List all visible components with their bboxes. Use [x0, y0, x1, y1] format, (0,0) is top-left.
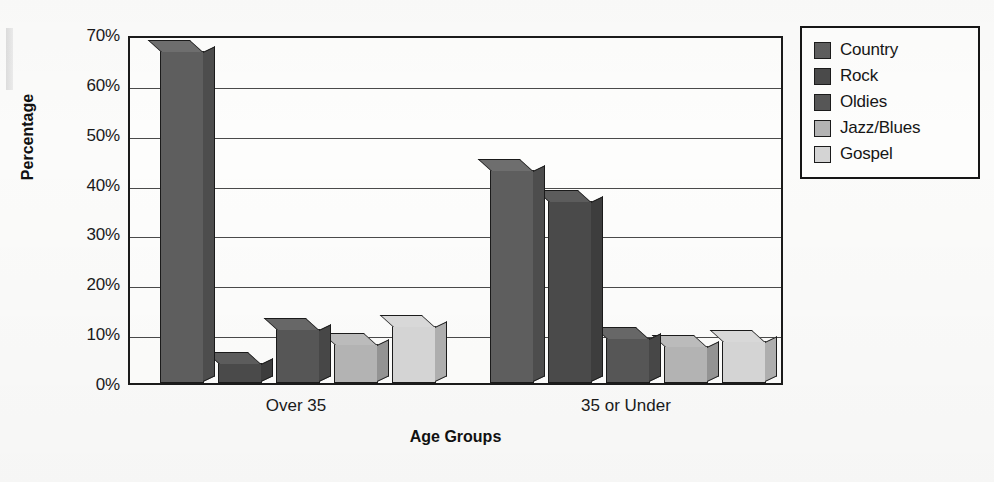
y-axis-tick-label: 70%	[62, 26, 120, 46]
legend-item-label: Oldies	[840, 92, 887, 112]
bar-side-face	[533, 165, 545, 382]
gridline	[130, 138, 781, 139]
bar	[160, 51, 204, 383]
legend-item[interactable]: Gospel	[814, 141, 968, 167]
x-axis-category-label: Over 35	[196, 396, 396, 416]
legend-item-label: Rock	[840, 66, 878, 86]
gridline	[130, 237, 781, 238]
bar-side-face	[591, 196, 603, 382]
legend-swatch	[814, 120, 831, 137]
y-axis-tick-label: 40%	[62, 176, 120, 196]
bar-side-face	[435, 321, 447, 382]
x-axis-title: Age Groups	[128, 428, 783, 446]
legend-swatch	[814, 94, 831, 111]
bar-side-face	[203, 47, 215, 382]
bar	[276, 329, 320, 383]
legend-item-label: Gospel	[840, 144, 893, 164]
y-axis-tick-label: 10%	[62, 325, 120, 345]
legend-item[interactable]: Oldies	[814, 89, 968, 115]
gridline	[130, 88, 781, 89]
bar-top-face	[148, 40, 203, 52]
legend-item[interactable]: Jazz/Blues	[814, 115, 968, 141]
scan-artifact	[6, 28, 13, 90]
bar-top-face	[264, 318, 319, 330]
x-axis-category-label: 35 or Under	[526, 396, 726, 416]
legend-item[interactable]: Rock	[814, 63, 968, 89]
bar-side-face	[707, 341, 719, 382]
bar-side-face	[261, 358, 273, 382]
bar	[664, 346, 708, 383]
y-axis-tick-label: 20%	[62, 275, 120, 295]
y-axis-tick-label: 0%	[62, 375, 120, 395]
bar	[218, 363, 262, 383]
legend-swatch	[814, 146, 831, 163]
bar	[392, 326, 436, 383]
bar	[490, 170, 534, 383]
y-axis-title: Percentage	[19, 37, 37, 237]
bar	[334, 344, 378, 383]
plot-area	[128, 36, 783, 385]
bar-top-face	[478, 159, 533, 171]
bar-side-face	[765, 336, 777, 382]
legend-item[interactable]: Country	[814, 37, 968, 63]
legend-item-label: Country	[840, 40, 898, 60]
legend: CountryRockOldiesJazz/BluesGospel	[800, 26, 980, 179]
bar-side-face	[319, 324, 331, 382]
y-axis-tick-label: 30%	[62, 225, 120, 245]
bar	[606, 338, 650, 383]
y-axis-tick-label: 60%	[62, 76, 120, 96]
legend-swatch	[814, 42, 831, 59]
bar-side-face	[377, 339, 389, 382]
y-axis-tick-label: 50%	[62, 126, 120, 146]
bar	[548, 201, 592, 383]
bar-top-face	[380, 315, 435, 327]
legend-swatch	[814, 68, 831, 85]
y-axis-tick-labels: 0%10%20%30%40%50%60%70%	[54, 36, 120, 385]
bar	[722, 341, 766, 383]
chart-page: Percentage 0%10%20%30%40%50%60%70% Over …	[0, 0, 994, 482]
bar-side-face	[649, 333, 661, 382]
gridline	[130, 287, 781, 288]
gridline	[130, 188, 781, 189]
legend-item-label: Jazz/Blues	[840, 118, 920, 138]
